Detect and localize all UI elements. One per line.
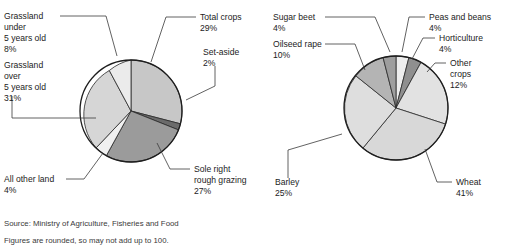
label-value: 31% [4, 93, 22, 103]
rounding-note: Figures are rounded, so may not add up t… [4, 236, 169, 245]
label-sugar-beet: Sugar beet 4% [273, 12, 316, 33]
label-all-other-land: All other land 4% [4, 174, 54, 195]
label-line: crops [450, 69, 471, 79]
label-value: 4% [4, 185, 17, 195]
label-value: 12% [450, 80, 468, 90]
land-use-pie [80, 60, 182, 162]
leader-grassland-under [60, 16, 117, 56]
label-total-crops: Total crops 29% [200, 12, 242, 33]
label-value: 4% [439, 44, 452, 54]
source-note: Source: Ministry of Agriculture, Fisheri… [4, 219, 179, 228]
label-line: Grassland [4, 11, 43, 21]
leader-total-crops [151, 17, 196, 62]
label-set-aside: Set-aside 2% [203, 47, 240, 68]
label-line: Horticulture [439, 33, 483, 43]
label-line: All other land [4, 174, 54, 184]
label-value: 41% [456, 188, 474, 198]
leader-oilseed-rape [325, 44, 365, 70]
label-line: 5 years old [4, 33, 46, 43]
leader-wheat [425, 149, 452, 182]
label-value: 4% [273, 23, 286, 33]
label-line: Oilseed rape [273, 39, 322, 49]
label-line: Peas and beans [429, 12, 491, 22]
label-line: Sugar beet [273, 12, 316, 22]
label-line: Wheat [456, 177, 481, 187]
label-sole-right-rough-grazing: Sole right rough grazing 27% [194, 164, 247, 196]
label-line: Total crops [200, 12, 242, 22]
leader-sugar-beet [325, 17, 390, 52]
label-value: 8% [4, 44, 17, 54]
leader-all-other-land [66, 153, 103, 179]
label-line: Set-aside [203, 47, 240, 57]
label-value: 10% [273, 50, 291, 60]
label-horticulture: Horticulture 4% [439, 33, 483, 54]
crops-pie [344, 56, 448, 160]
label-other-crops: Other crops 12% [450, 58, 472, 90]
label-line: Grassland [4, 60, 43, 70]
label-value: 27% [194, 186, 212, 196]
label-line: rough grazing [194, 175, 247, 185]
leader-peas-and-beans [402, 17, 425, 52]
leader-barley-line [288, 134, 342, 178]
label-line: 5 years old [4, 82, 46, 92]
label-barley: Barley 25% [275, 177, 300, 198]
label-value: 25% [275, 188, 293, 198]
label-value: 2% [203, 58, 216, 68]
label-value: 29% [200, 23, 218, 33]
label-line: Sole right [194, 164, 231, 174]
label-grassland-over-5-years: Grassland over 5 years old 31% [4, 60, 46, 103]
label-line: over [4, 71, 21, 81]
leader-set-aside [186, 66, 215, 100]
label-line: Barley [275, 177, 300, 187]
leader-horticulture [412, 38, 435, 59]
pie-chart-figure: Grassland under 5 years old 8% Grassland… [0, 0, 511, 250]
label-grassland-under-5-years: Grassland under 5 years old 8% [4, 11, 46, 54]
label-wheat: Wheat 41% [456, 177, 481, 198]
label-value: 4% [429, 23, 442, 33]
label-line: under [4, 22, 26, 32]
label-peas-and-beans: Peas and beans 4% [429, 12, 491, 33]
label-line: Other [450, 58, 472, 68]
label-oilseed-rape: Oilseed rape 10% [273, 39, 322, 60]
